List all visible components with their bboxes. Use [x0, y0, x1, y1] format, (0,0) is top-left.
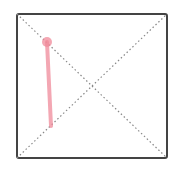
- gesture-stroke: [47, 42, 51, 126]
- gesture-start-dot[interactable]: [42, 37, 52, 47]
- canvas[interactable]: [0, 0, 179, 176]
